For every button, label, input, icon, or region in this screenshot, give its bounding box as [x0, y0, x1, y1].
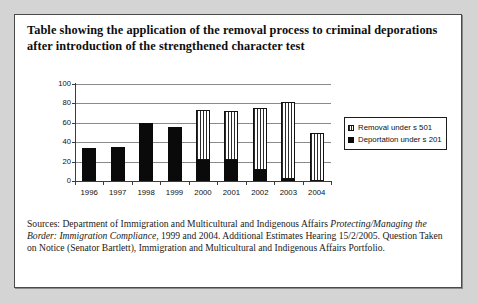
- y-axis-tick-label: 60: [47, 119, 71, 127]
- x-axis-tick-mark: [75, 181, 76, 185]
- y-axis-tick-mark: [72, 142, 76, 143]
- y-axis-tick-label: 100: [47, 80, 71, 88]
- bar: [111, 147, 125, 181]
- bar-group: [217, 84, 245, 181]
- bar-segment-deportation: [82, 148, 96, 181]
- page-title: Table showing the application of the rem…: [27, 23, 451, 54]
- y-axis-tick-label: 20: [47, 158, 71, 166]
- y-axis-tick-mark: [72, 123, 76, 124]
- y-axis-tick-label: 80: [47, 99, 71, 107]
- page-background: Table showing the application of the rem…: [0, 0, 478, 303]
- y-axis-tick-mark: [72, 84, 76, 85]
- bar-group: [274, 84, 302, 181]
- figure-card: Table showing the application of the rem…: [14, 14, 462, 288]
- legend-swatch-removal-icon: [348, 125, 354, 131]
- bar: [196, 110, 210, 181]
- plot-area: [75, 84, 331, 181]
- bar: [168, 127, 182, 181]
- bar-group: [246, 84, 274, 181]
- x-axis-tick-mark: [303, 181, 304, 185]
- bar-segment-deportation: [196, 160, 210, 181]
- x-axis-tick-mark: [246, 181, 247, 185]
- bar-segment-deportation: [281, 179, 295, 181]
- x-axis-tick-mark: [132, 181, 133, 185]
- bar-segment-deportation: [224, 160, 238, 181]
- x-axis-tick-mark: [274, 181, 275, 185]
- bar: [82, 148, 96, 181]
- y-axis-tick-label: 40: [47, 138, 71, 146]
- bar-segment-deportation: [168, 127, 182, 181]
- bar: [224, 111, 238, 181]
- bar-segment-deportation: [139, 123, 153, 181]
- bar-group: [303, 84, 331, 181]
- y-axis-labels: 020406080100: [43, 69, 71, 199]
- x-axis-tick-mark: [103, 181, 104, 185]
- source-note: Sources: Department of Immigration and M…: [27, 218, 453, 255]
- bar: [253, 108, 267, 181]
- bar-segment-removal: [196, 110, 210, 159]
- bar-group: [132, 84, 160, 181]
- bar-group: [75, 84, 103, 181]
- bar-segment-deportation: [111, 147, 125, 181]
- bar: [310, 133, 324, 181]
- x-axis-tick-mark: [331, 181, 332, 185]
- y-axis-tick-label: 0: [47, 177, 71, 185]
- bar: [139, 123, 153, 181]
- bar-segment-removal: [224, 111, 238, 160]
- bar-chart: 020406080100 Removal under s 501Deportat…: [15, 69, 463, 215]
- x-axis-tick-label: 2004: [300, 188, 334, 197]
- y-axis-tick-mark: [72, 103, 76, 104]
- x-axis-tick-mark: [217, 181, 218, 185]
- bar-group: [103, 84, 131, 181]
- x-axis-tick-mark: [160, 181, 161, 185]
- legend-item: Deportation under s 201: [348, 134, 442, 145]
- source-title-italic: Protecting/Managing the Border: Immigrat…: [27, 218, 427, 241]
- legend-swatch-deportation-icon: [348, 137, 354, 143]
- bar-group: [160, 84, 188, 181]
- bar-segment-deportation: [253, 170, 267, 181]
- legend-item: Removal under s 501: [348, 122, 442, 133]
- chart-legend: Removal under s 501Deportation under s 2…: [344, 117, 447, 150]
- legend-label: Removal under s 501: [358, 123, 432, 132]
- x-axis-line: [75, 181, 332, 182]
- bar-segment-removal: [253, 108, 267, 170]
- bar-segment-removal: [281, 102, 295, 179]
- legend-label: Deportation under s 201: [358, 135, 442, 144]
- bar-segment-removal: [310, 133, 324, 181]
- x-axis-tick-mark: [189, 181, 190, 185]
- bar-group: [189, 84, 217, 181]
- y-axis-tick-mark: [72, 162, 76, 163]
- bar: [281, 102, 295, 181]
